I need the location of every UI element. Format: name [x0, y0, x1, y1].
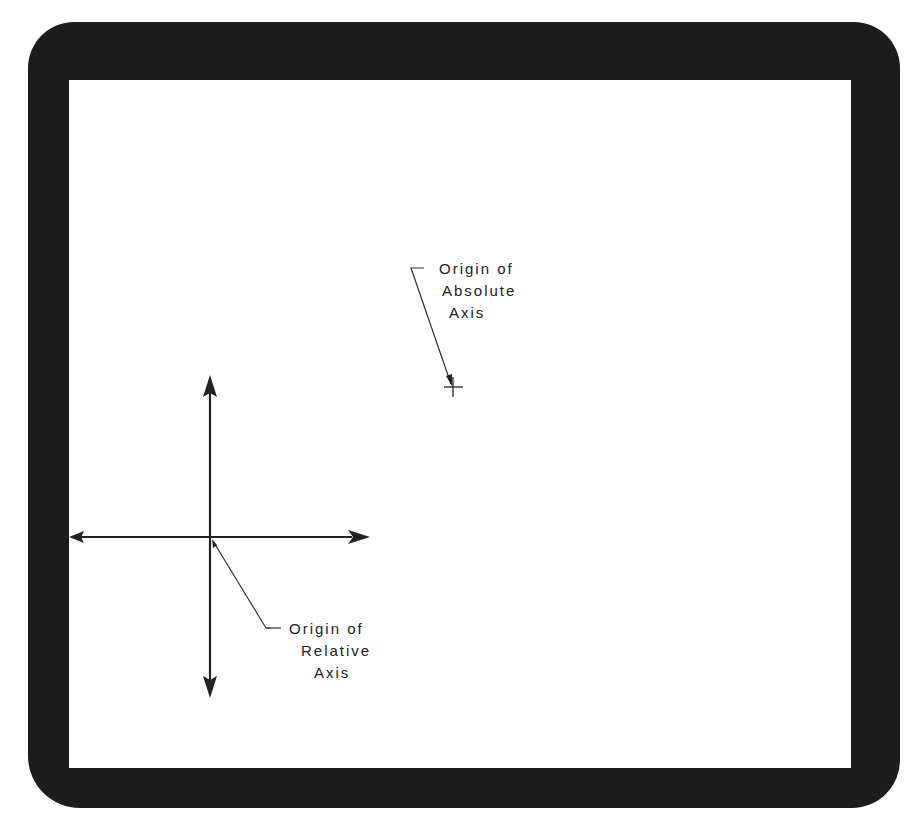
axes-diagram: [0, 0, 922, 825]
absolute-origin-label: Origin of Absolute Axis: [439, 258, 516, 324]
crosshair-icon: [444, 377, 463, 397]
horizontal-axis: [69, 530, 370, 544]
relative-origin-label: Origin of Relative Axis: [289, 618, 371, 684]
absolute-label-line-1: Origin of: [439, 258, 516, 280]
relative-label-line-2: Relative: [289, 640, 371, 662]
absolute-label-line-2: Absolute: [439, 280, 516, 302]
relative-label-line-1: Origin of: [289, 618, 371, 640]
relative-origin-leader: [212, 539, 281, 628]
leader-arrowhead-icon: [446, 374, 452, 386]
absolute-label-line-3: Axis: [439, 302, 516, 324]
relative-label-line-3: Axis: [289, 662, 371, 684]
